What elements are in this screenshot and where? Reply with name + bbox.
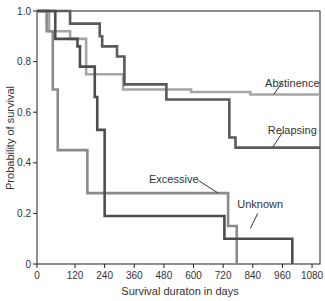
x-tick-label: 120 bbox=[67, 270, 84, 281]
series-label-abstinence: Abstinence bbox=[265, 77, 319, 89]
survival-curves bbox=[37, 11, 320, 264]
x-tick-label: 600 bbox=[185, 270, 202, 281]
y-tick-label: 0.8 bbox=[17, 56, 31, 67]
x-tick-label: 840 bbox=[244, 270, 261, 281]
survival-chart: 0120240360480600720840960108000.20.40.60… bbox=[0, 0, 325, 301]
x-axis-label: Survival duraton in days bbox=[121, 285, 239, 297]
series-label-excessive: Excessive bbox=[149, 173, 199, 185]
y-tick-label: 0 bbox=[25, 259, 31, 270]
curve-excessive bbox=[37, 11, 237, 264]
x-tick-label: 480 bbox=[156, 270, 173, 281]
x-tick-label: 1080 bbox=[301, 270, 324, 281]
y-tick-label: 0.2 bbox=[17, 208, 31, 219]
chart-svg: 0120240360480600720840960108000.20.40.60… bbox=[0, 0, 325, 301]
y-axis-label: Probability of survival bbox=[4, 86, 16, 190]
series-label-unknown: Unknown bbox=[237, 198, 283, 210]
x-tick-label: 0 bbox=[34, 270, 40, 281]
x-tick-label: 720 bbox=[215, 270, 232, 281]
x-tick-label: 960 bbox=[274, 270, 291, 281]
y-tick-label: 0.4 bbox=[17, 157, 31, 168]
leader-line bbox=[250, 213, 257, 228]
x-tick-label: 360 bbox=[126, 270, 143, 281]
series-label-relapsing: Relapsing bbox=[268, 124, 317, 136]
curve-unknown bbox=[37, 11, 292, 264]
y-tick-label: 0.6 bbox=[17, 107, 31, 118]
x-tick-label: 240 bbox=[96, 270, 113, 281]
leader-line bbox=[198, 181, 218, 194]
y-tick-label: 1.0 bbox=[17, 6, 31, 17]
